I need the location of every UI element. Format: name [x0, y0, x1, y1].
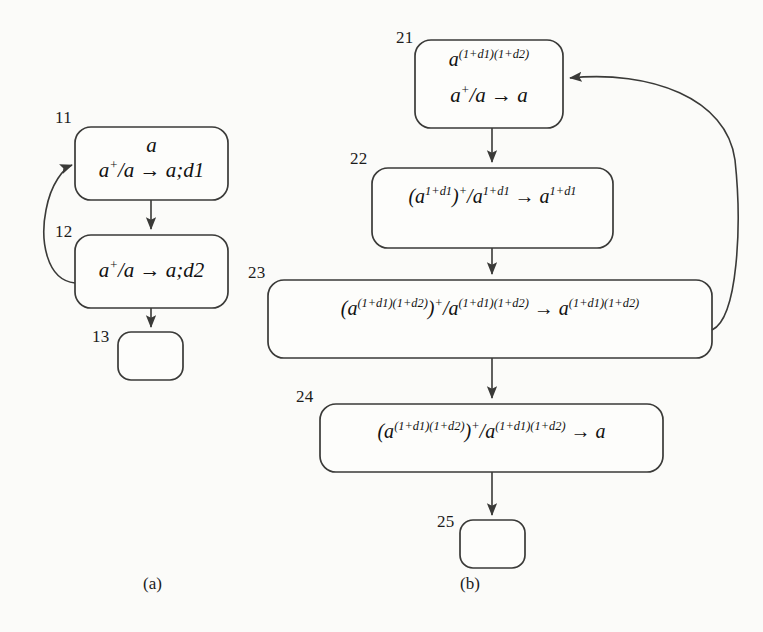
node-index-25: 25	[437, 512, 455, 532]
node-index-24: 24	[296, 387, 314, 407]
node-index-23: 23	[248, 263, 266, 283]
node-index-12: 12	[55, 222, 73, 242]
node-11-line-2: a+/a → a;d1	[75, 158, 228, 183]
caption-a: (a)	[143, 574, 162, 594]
node-24-line-1: (a(1+d1)(1+d2))+/a(1+d1)(1+d2) → a	[320, 420, 663, 443]
node-21-line-2: a+/a → a	[415, 83, 563, 108]
node-index-13: 13	[92, 327, 110, 347]
node-box-13[interactable]	[118, 332, 183, 380]
node-box-22[interactable]	[372, 168, 613, 248]
node-box-25[interactable]	[460, 520, 525, 568]
node-11-line-1: a	[75, 133, 228, 158]
node-12-line-1: a+/a → a;d2	[75, 258, 228, 283]
node-22-line-1: (a1+d1)+/a1+d1 → a1+d1	[372, 185, 613, 208]
node-23-line-1: (a(1+d1)(1+d2))+/a(1+d1)(1+d2) → a(1+d1)…	[268, 297, 712, 320]
node-index-21: 21	[396, 28, 414, 48]
node-21-line-1: a(1+d1)(1+d2)	[415, 48, 563, 71]
node-index-11: 11	[55, 108, 72, 128]
node-index-22: 22	[350, 149, 368, 169]
caption-b: (b)	[460, 574, 480, 594]
figure-canvas: 11 12 13 21 22 23 24 25 a a+/a → a;d1 a+…	[0, 0, 763, 632]
